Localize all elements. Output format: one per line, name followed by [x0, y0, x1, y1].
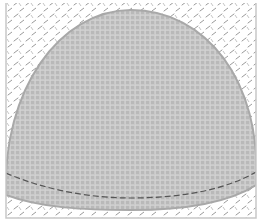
- illustration: [0, 0, 262, 224]
